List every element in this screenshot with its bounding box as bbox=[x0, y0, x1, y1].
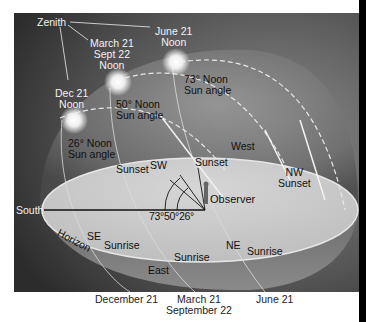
observer-label: Observer bbox=[210, 194, 255, 205]
observer-figure bbox=[204, 186, 208, 204]
right-edge-bar bbox=[359, 0, 366, 322]
diagram-graphic bbox=[0, 0, 366, 322]
bottom-date-jun: June 21 bbox=[256, 294, 293, 305]
nw-sunset-label: NW Sunset bbox=[278, 167, 311, 189]
south-label: South bbox=[16, 205, 43, 216]
sw-label: SW bbox=[150, 160, 167, 171]
bottom-date-equinox: March 21 September 22 bbox=[166, 294, 232, 316]
sun-angle-50-label: 50° Noon Sun angle bbox=[116, 99, 163, 121]
june-sun bbox=[162, 48, 190, 76]
equinox-noon-label: March 21 Sept 22 Noon bbox=[90, 38, 134, 71]
bottom-date-dec: December 21 bbox=[95, 294, 158, 305]
sunset-w-label: Sunset bbox=[195, 157, 228, 168]
june-noon-label: June 21 Noon bbox=[155, 26, 192, 48]
dec-sun bbox=[60, 106, 88, 134]
angle-degrees-label: 73°50°26° bbox=[149, 211, 194, 222]
se-label: SE bbox=[87, 231, 101, 242]
sun-angle-26-label: 26° Noon Sun angle bbox=[68, 138, 115, 160]
ne-label: NE bbox=[226, 240, 241, 251]
dec-noon-label: Dec 21 Noon bbox=[55, 88, 88, 110]
east-label: East bbox=[148, 265, 169, 276]
sunrise-e-label: Sunrise bbox=[174, 252, 210, 263]
zenith-label: Zenith bbox=[37, 17, 66, 28]
sun-angle-73-label: 73° Noon Sun angle bbox=[184, 74, 231, 96]
equinox-sun bbox=[104, 68, 132, 96]
sun-path-diagram: Zenith June 21 Noon March 21 Sept 22 Noo… bbox=[0, 0, 366, 322]
sunset-sw-label: Sunset bbox=[116, 164, 149, 175]
sunrise-se-label: Sunrise bbox=[104, 240, 140, 251]
west-label: West bbox=[231, 141, 255, 152]
sunrise-ne-label: Sunrise bbox=[247, 246, 283, 257]
